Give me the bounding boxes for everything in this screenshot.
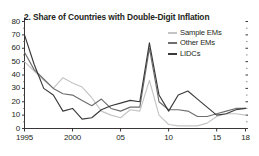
chart-figure: 2. Share of Countries with Double-Digit … bbox=[0, 0, 258, 156]
legend-item: Sample EMs bbox=[168, 28, 222, 37]
x-tick-label: 1995 bbox=[12, 134, 38, 142]
y-tick-label: 20 bbox=[2, 98, 20, 106]
legend-swatch-icon bbox=[168, 42, 177, 44]
legend-swatch-icon bbox=[168, 32, 177, 34]
y-tick-label: 80 bbox=[2, 18, 20, 26]
y-tick-label: 70 bbox=[2, 31, 20, 39]
legend-label: Other EMs bbox=[180, 39, 215, 47]
legend-swatch-icon bbox=[168, 53, 177, 55]
y-tick-label: 40 bbox=[2, 71, 20, 79]
y-tick-label: 0 bbox=[2, 125, 20, 133]
series-line-sample-ems bbox=[25, 62, 246, 126]
x-tick-label: 05 bbox=[108, 134, 134, 142]
legend-item: LIDCs bbox=[168, 49, 222, 58]
x-tick-label: 18 bbox=[233, 134, 259, 142]
y-tick-label: 30 bbox=[2, 84, 20, 92]
legend-label: LIDCs bbox=[180, 50, 200, 58]
x-tick-label: 2000 bbox=[60, 134, 86, 142]
chart-legend: Sample EMsOther EMsLIDCs bbox=[168, 28, 222, 58]
legend-label: Sample EMs bbox=[180, 29, 222, 37]
legend-item: Other EMs bbox=[168, 39, 222, 48]
x-tick-label: 10 bbox=[156, 134, 182, 142]
y-tick-label: 60 bbox=[2, 44, 20, 52]
series-line-other-ems bbox=[25, 48, 246, 116]
x-tick-label: 15 bbox=[204, 134, 230, 142]
y-tick-label: 10 bbox=[2, 111, 20, 119]
y-tick-label: 50 bbox=[2, 58, 20, 66]
